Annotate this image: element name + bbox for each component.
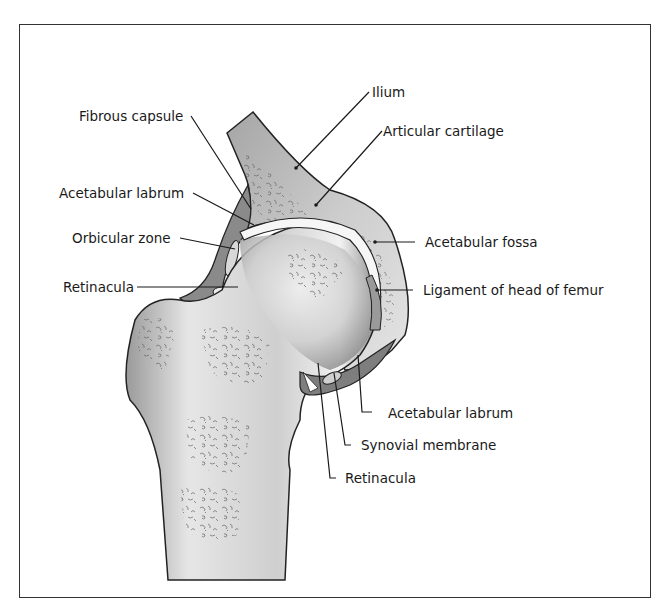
label-synovial-membrane: Synovial membrane xyxy=(361,437,496,453)
label-acetabular-labrum-right: Acetabular labrum xyxy=(388,405,513,421)
label-ligament-head-femur: Ligament of head of femur xyxy=(423,282,604,298)
label-acetabular-fossa: Acetabular fossa xyxy=(425,234,538,250)
label-retinacula-bottom: Retinacula xyxy=(345,470,416,486)
label-articular-cartilage: Articular cartilage xyxy=(383,123,504,139)
label-retinacula-left: Retinacula xyxy=(63,279,134,295)
hip-joint-illustration xyxy=(0,0,670,615)
label-fibrous-capsule: Fibrous capsule xyxy=(79,108,183,124)
label-orbicular-zone: Orbicular zone xyxy=(72,230,171,246)
label-ilium: Ilium xyxy=(372,84,405,100)
label-acetabular-labrum-left: Acetabular labrum xyxy=(59,185,184,201)
